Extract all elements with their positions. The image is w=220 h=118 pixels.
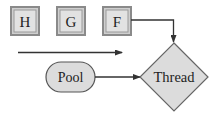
pool-label: Pool <box>58 70 84 85</box>
diagram-canvas: H G F Pool Thread <box>0 0 220 118</box>
queue-box-f: F <box>103 7 131 35</box>
thread-label: Thread <box>153 69 195 85</box>
queue-box-g-label: G <box>66 14 77 30</box>
queue-box-g: G <box>57 7 85 35</box>
thread-node: Thread <box>140 43 208 111</box>
queue-box-h-label: H <box>20 14 31 30</box>
f-to-thread-connector <box>131 20 174 42</box>
queue-box-f-label: F <box>113 14 121 30</box>
queue-box-h: H <box>11 7 39 35</box>
pool-node: Pool <box>46 62 95 92</box>
